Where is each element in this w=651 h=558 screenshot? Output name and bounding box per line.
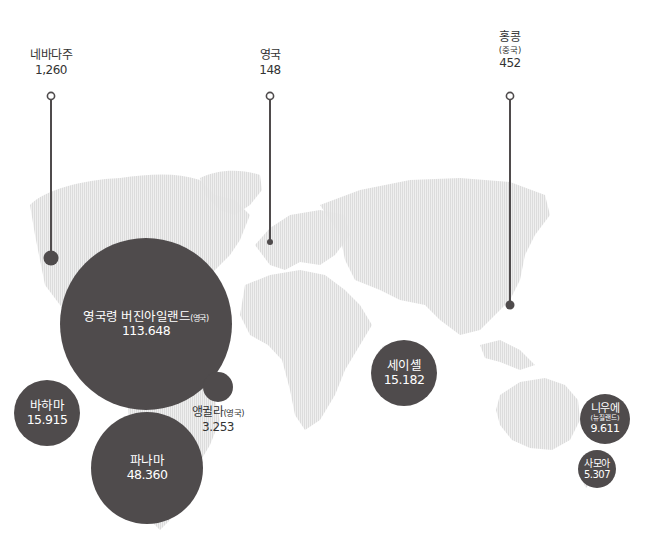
- bubble-anguilla: [203, 372, 233, 402]
- bubble-bahamas: 바하마 15.915: [14, 380, 80, 446]
- nevada-dot: [44, 251, 59, 266]
- uk-dot: [267, 239, 273, 245]
- panama-value: 48.360: [127, 468, 168, 482]
- nevada-label: 네바다주 1,260: [30, 48, 72, 78]
- bvi-name-text: 영국령 버진아일랜드: [83, 309, 190, 324]
- bubble-map-chart: 네바다주 1,260 영국 148 홍콩 (중국) 452 영국령 버진아일랜드…: [0, 0, 651, 558]
- bahamas-value: 15.915: [27, 413, 68, 427]
- bubble-seychelles: 세이셸 15.182: [371, 340, 437, 406]
- bubble-niue: 니우에 (뉴질랜드) 9.611: [580, 394, 630, 444]
- bahamas-name: 바하마: [30, 399, 65, 413]
- hongkong-name: 홍콩: [499, 30, 522, 45]
- niue-value: 9.611: [591, 423, 620, 436]
- uk-label: 영국 148: [259, 48, 280, 78]
- hongkong-sub: (중국): [499, 45, 522, 56]
- uk-pin-head-icon: [266, 92, 273, 99]
- samoa-value: 5.307: [584, 469, 610, 481]
- hongkong-pin-head-icon: [506, 92, 513, 99]
- bvi-name: 영국령 버진아일랜드(영국): [83, 310, 208, 324]
- anguilla-name-text: 앵귈라: [192, 405, 224, 419]
- anguilla-label: 앵귈라(영국) 3.253: [192, 405, 244, 435]
- uk-value: 148: [259, 63, 280, 78]
- uk-name: 영국: [259, 48, 280, 63]
- bubble-panama: 파나마 48.360: [91, 412, 203, 524]
- seychelles-name: 세이셸: [387, 359, 422, 373]
- bvi-value: 113.648: [122, 324, 170, 338]
- seychelles-value: 15.182: [384, 373, 425, 387]
- nevada-value: 1,260: [30, 63, 72, 78]
- anguilla-value: 3.253: [192, 420, 244, 435]
- samoa-name: 사모아: [584, 458, 610, 470]
- nevada-pin-head-icon: [47, 92, 54, 99]
- hongkong-dot: [506, 301, 515, 310]
- nevada-name: 네바다주: [30, 48, 72, 63]
- bubble-samoa: 사모아 5.307: [578, 450, 616, 488]
- hongkong-label: 홍콩 (중국) 452: [499, 30, 522, 71]
- hongkong-value: 452: [499, 56, 522, 71]
- anguilla-name: 앵귈라(영국): [192, 405, 244, 420]
- anguilla-sub: (영국): [223, 408, 244, 418]
- panama-name: 파나마: [130, 454, 165, 468]
- bvi-sub: (영국): [190, 314, 208, 323]
